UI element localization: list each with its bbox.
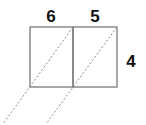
right-width-label: 5 — [90, 7, 99, 26]
left-width-label: 6 — [46, 7, 55, 26]
right-dashed-diagonal — [46, 27, 117, 124]
left-dashed-diagonal — [3, 27, 73, 124]
height-label: 4 — [126, 52, 136, 71]
rectangle-diagram: 6 5 4 — [0, 0, 146, 125]
